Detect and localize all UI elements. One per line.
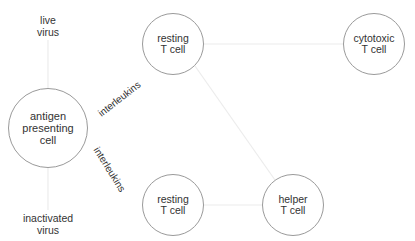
node-cytotoxic-t-cell[interactable]: cytotoxic T cell [343, 13, 405, 75]
node-label: resting T cell [157, 33, 189, 55]
node-resting-t-cell-top[interactable]: resting T cell [142, 13, 204, 75]
node-resting-t-cell-bottom[interactable]: resting T cell [142, 174, 204, 236]
node-helper-t-cell[interactable]: helper T cell [262, 174, 324, 236]
live-virus-label: live virus [37, 14, 59, 38]
node-label: antigen presenting cell [22, 110, 73, 146]
node-antigen-presenting-cell[interactable]: antigen presenting cell [8, 88, 88, 168]
node-label: resting T cell [157, 194, 189, 216]
inactivated-virus-label: inactivated virus [23, 212, 73, 236]
node-label: cytotoxic T cell [354, 33, 395, 55]
node-label: helper T cell [278, 194, 307, 216]
edge-resting-top-to-helper [195, 66, 275, 180]
